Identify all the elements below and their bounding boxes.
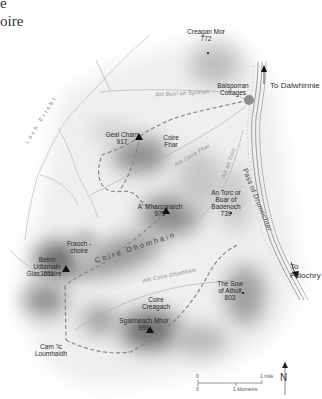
place-label-coire-fhar: Coire Fhar [160,134,182,148]
north-label: N [280,373,287,382]
peak-dot-creagan-mor [207,52,209,54]
peak-height: 803 [214,294,246,301]
peak-label-geal-charn: Geal Charn 917 [104,131,140,145]
peak-label-an-torc: An Torc or Boar of Badenoch 739 [207,189,245,217]
peak-height: 739 [207,210,245,217]
place-label-balsporran: Balsporran Cottages [217,82,249,96]
peak-name: Sgairneach Mhor [112,317,176,324]
peak-name: The Sow of Atholl [214,280,246,294]
start-point-marker [244,95,254,105]
destination-north: To Dalwhinnie [270,81,314,90]
map-canvas [0,0,322,399]
destination-south: To Pitlochry [290,262,320,280]
peak-label-sgairneach-mhor: Sgairneach Mhor 991 [112,317,176,331]
peak-label-a-mharconaich: A' Mharconaich 975 [132,203,188,217]
place-label-fraoch-choire: Fraoch -choire [64,240,94,254]
peak-label-sow-of-atholl: The Sow of Atholl 803 [214,280,246,301]
peak-name: Beinn Udlamain [28,256,66,270]
peak-name: A' Mharconaich [132,203,188,210]
peak-label-creagan-mor: Creagan Mor 772 [186,28,226,42]
scale-mile-label: 1 mile [260,373,273,379]
peak-name: An Torc or Boar of Badenoch [207,189,245,210]
scale-zero-km: 0 [196,386,199,392]
scale-zero-miles: 0 [196,373,199,379]
peak-height: 772 [186,35,226,42]
peak-height: 917 [104,138,140,145]
peak-name: Geal Charn [104,131,140,138]
scale-km-label: 1 kilometre [233,386,257,392]
place-label-carn-lc: Carn 'Ic Loumhaidh [35,343,67,357]
peak-height: 991 [112,324,176,331]
place-label-coire-creagach: Coire Creagach [142,296,170,310]
peak-height: 975 [132,210,188,217]
peak-name: Creagan Mor [186,28,226,35]
place-label-glas-choire: Glas -choire [24,270,64,277]
